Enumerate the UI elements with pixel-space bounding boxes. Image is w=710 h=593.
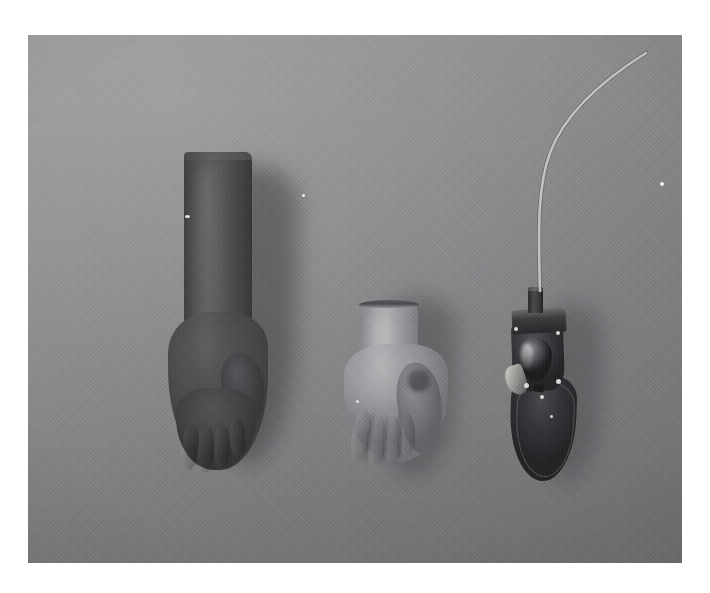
mechanical-hand-notch bbox=[534, 384, 545, 392]
prosthetic-hand-components-photo bbox=[28, 35, 682, 563]
page-bottom-margin bbox=[0, 563, 710, 593]
light-hand-finger-crease bbox=[398, 414, 401, 458]
mechanical-hand-screw bbox=[556, 379, 561, 384]
print-dust-on-glove bbox=[185, 215, 190, 218]
light-hand-wrist-rim bbox=[359, 300, 419, 308]
dark-glove-finger bbox=[214, 426, 230, 468]
page-root bbox=[0, 0, 710, 593]
dark-glove-highlight bbox=[194, 166, 218, 366]
mechanical-hand-screw bbox=[556, 331, 560, 335]
mechanical-hand-screw bbox=[550, 415, 553, 418]
subject-light-cosmetic-hand bbox=[340, 300, 460, 480]
print-dust-on-hand bbox=[356, 400, 359, 403]
mechanical-hand-screw bbox=[524, 383, 529, 388]
mechanical-hand-wrist-post-cap bbox=[528, 287, 543, 291]
light-hand-thumb-shadow bbox=[408, 370, 430, 392]
mechanical-hand-metal-highlight bbox=[521, 343, 533, 369]
subject-mechanical-prosthetic-hand bbox=[494, 287, 604, 487]
mechanical-hand-screw bbox=[540, 395, 544, 399]
mechanical-hand-screw bbox=[514, 327, 518, 331]
dark-glove-cuff bbox=[184, 152, 252, 160]
subject-dark-cosmetic-glove bbox=[160, 152, 280, 472]
light-hand-highlight bbox=[370, 314, 392, 404]
